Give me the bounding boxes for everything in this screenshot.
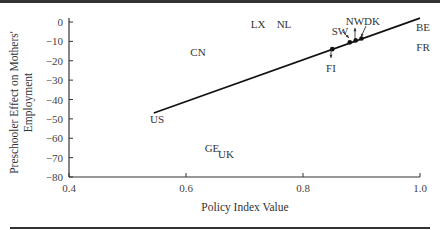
x-tick-label: 0.8 bbox=[296, 182, 310, 194]
y-axis-label-text: Preschooler Effect on Mothers'Employment bbox=[8, 31, 35, 174]
y-tick-label: −50 bbox=[46, 113, 64, 125]
x-axis-label: Policy Index Value bbox=[201, 201, 288, 214]
y-tick-label: −70 bbox=[46, 152, 64, 164]
country-label-uk: UK bbox=[218, 148, 234, 160]
bottom-rule bbox=[10, 227, 430, 229]
y-tick-label: −30 bbox=[46, 74, 64, 86]
y-axis-label: Preschooler Effect on Mothers'Employment bbox=[8, 31, 35, 174]
country-label-be: BE bbox=[416, 21, 430, 33]
country-label-nw: NW bbox=[346, 15, 365, 27]
y-tick-label: −10 bbox=[46, 35, 64, 47]
y-tick-label: −40 bbox=[46, 94, 64, 106]
fit-line bbox=[154, 18, 420, 113]
country-label-dk: DK bbox=[364, 15, 380, 27]
country-label-lx: LX bbox=[251, 18, 266, 30]
country-label-us: US bbox=[150, 113, 164, 125]
country-label-cn: CN bbox=[190, 46, 205, 58]
y-tick-label: 0 bbox=[58, 16, 64, 28]
fit-point-marker bbox=[348, 40, 353, 45]
country-label-nl: NL bbox=[277, 18, 292, 30]
country-label-fi: FI bbox=[326, 62, 336, 74]
regression-line bbox=[154, 18, 420, 113]
fit-point-marker bbox=[353, 38, 358, 43]
arrow-head-icon bbox=[353, 28, 356, 31]
scatter-chart: Preschooler Effect on Mothers'Employment… bbox=[0, 0, 440, 230]
country-label-fr: FR bbox=[416, 41, 430, 53]
country-labels: LXNLCNUSGEUKBEFRFISWNWDK bbox=[150, 15, 430, 160]
arrow-head-icon bbox=[329, 55, 332, 58]
y-tick-label: −20 bbox=[46, 55, 64, 67]
y-tick-label: −60 bbox=[46, 132, 64, 144]
x-tick-label: 1.0 bbox=[413, 182, 427, 194]
axes bbox=[69, 18, 420, 177]
x-axis-ticks: 0.40.60.81.0 bbox=[62, 173, 427, 194]
x-tick-label: 0.6 bbox=[179, 182, 193, 194]
y-tick-label: −80 bbox=[46, 171, 64, 183]
x-tick-label: 0.4 bbox=[62, 182, 76, 194]
